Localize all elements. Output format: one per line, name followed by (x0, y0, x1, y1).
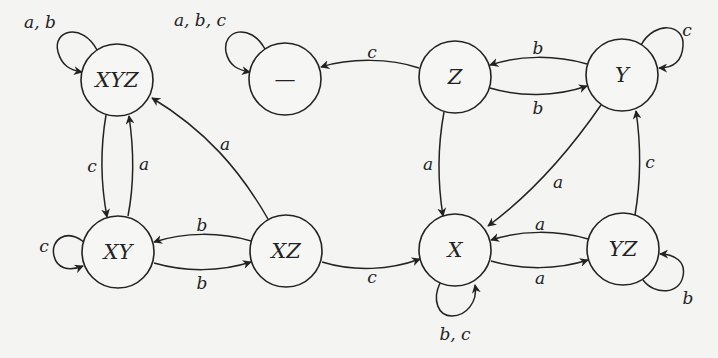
edge-Z-to-Y: b (490, 86, 587, 118)
svg-text:Z: Z (447, 65, 463, 89)
edge-XY-self: c (39, 236, 84, 269)
edge-Z-to-X: a (423, 112, 444, 216)
svg-text:b: b (683, 288, 694, 308)
edge-XY-to-XYZ: a (128, 116, 149, 216)
edge-Y-to-Z: b (490, 38, 587, 65)
svg-text:b: b (533, 98, 544, 118)
svg-text:a: a (535, 268, 545, 288)
state-X: X (419, 214, 491, 286)
svg-text:XY: XY (102, 240, 135, 264)
svg-text:c: c (367, 42, 377, 62)
edge-XYZ-to-XY: c (87, 115, 107, 217)
svg-text:YZ: YZ (609, 237, 638, 261)
state-XY: XY (82, 216, 154, 288)
svg-text:XYZ: XYZ (93, 68, 139, 92)
edge-dead-self: a, b, c (174, 10, 265, 72)
svg-text:b: b (197, 215, 208, 235)
state-YZ: YZ (587, 213, 659, 285)
svg-text:a: a (535, 214, 545, 234)
svg-text:b: b (533, 38, 544, 58)
svg-text:c: c (367, 267, 377, 287)
state-XZ: XZ (250, 215, 322, 287)
edge-XZ-to-XYZ: a (152, 98, 268, 219)
svg-text:Y: Y (615, 63, 631, 87)
svg-text:XZ: XZ (269, 239, 301, 263)
edge-X-to-YZ: a (491, 260, 588, 288)
edge-X-self: b, c (436, 283, 475, 344)
svg-text:a: a (423, 154, 433, 174)
svg-text:a, b: a, b (24, 12, 56, 32)
svg-text:b, c: b, c (439, 324, 471, 344)
state-Y: Y (586, 39, 658, 111)
edge-XZ-to-XY: b (154, 215, 251, 242)
svg-text:a, b, c: a, b, c (174, 10, 227, 30)
edge-Y-to-X: a (488, 105, 601, 226)
edge-YZ-to-X: a (491, 214, 588, 240)
edge-YZ-to-Y: c (635, 111, 655, 215)
edge-XY-to-XZ: b (154, 262, 251, 293)
svg-text:c: c (87, 156, 97, 176)
edge-XZ-to-X: c (322, 259, 420, 287)
svg-text:a: a (553, 172, 563, 192)
svg-text:c: c (682, 20, 692, 40)
state-dead: — (249, 43, 321, 115)
svg-text:a: a (139, 154, 149, 174)
svg-text:c: c (645, 152, 655, 172)
state-diagram: a, b a, b, c c b b c c a a a a c (0, 0, 718, 358)
svg-text:X: X (446, 238, 464, 262)
edge-Z-to-dead: c (321, 42, 419, 68)
svg-text:—: — (275, 67, 296, 91)
state-Z: Z (419, 41, 491, 113)
state-XYZ: XYZ (81, 44, 153, 116)
svg-text:a: a (220, 134, 230, 154)
svg-text:b: b (197, 273, 208, 293)
svg-text:c: c (39, 236, 49, 256)
